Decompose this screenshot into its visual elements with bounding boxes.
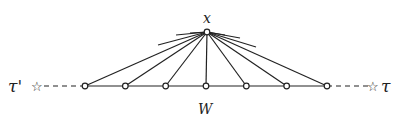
fan-edge (85, 32, 207, 86)
left-end-label: τ' (8, 76, 22, 96)
apex-stub (207, 32, 256, 47)
base-node (284, 83, 290, 89)
base-node (203, 83, 209, 89)
fan-edge (207, 32, 327, 86)
right-star-icon: ☆ (367, 79, 379, 94)
fan-edge (206, 32, 207, 86)
base-node (123, 83, 129, 89)
left-star-icon: ☆ (31, 79, 43, 94)
fan-edge (207, 32, 246, 86)
apex-label: x (203, 10, 211, 26)
base-node (324, 83, 330, 89)
apex-node (204, 29, 210, 35)
fan-edge (207, 32, 287, 86)
base-node (82, 83, 88, 89)
base-node (244, 83, 250, 89)
right-end-label: τ (381, 76, 391, 96)
fan-edge (166, 32, 207, 86)
fan-diagram: x W τ' τ ☆ ☆ (0, 0, 398, 130)
fan-edge (125, 32, 207, 86)
base-node (163, 83, 169, 89)
base-label: W (198, 101, 214, 117)
